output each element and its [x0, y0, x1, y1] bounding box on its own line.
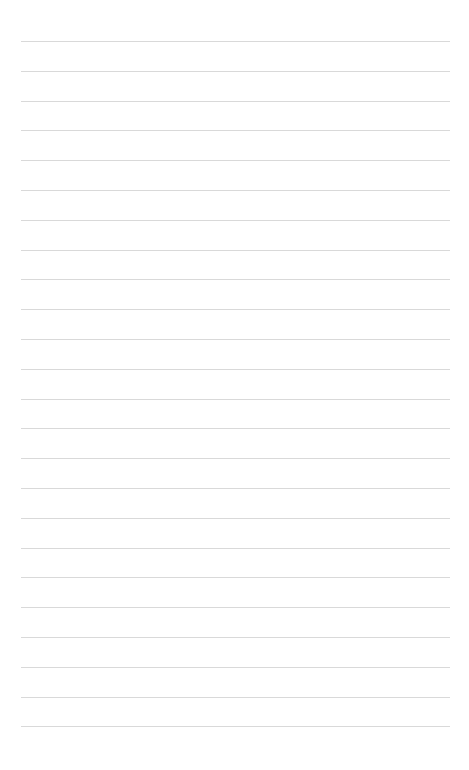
ruled-line [21, 667, 450, 668]
ruled-line [21, 339, 450, 340]
ruled-line [21, 160, 450, 161]
ruled-line [21, 488, 450, 489]
ruled-line [21, 458, 450, 459]
ruled-line [21, 697, 450, 698]
ruled-line [21, 309, 450, 310]
ruled-line [21, 101, 450, 102]
ruled-line [21, 518, 450, 519]
ruled-line [21, 220, 450, 221]
ruled-line [21, 279, 450, 280]
ruled-line [21, 41, 450, 42]
ruled-line [21, 250, 450, 251]
ruled-line [21, 130, 450, 131]
ruled-line [21, 548, 450, 549]
ruled-line [21, 190, 450, 191]
ruled-line [21, 577, 450, 578]
ruled-line [21, 369, 450, 370]
ruled-line [21, 399, 450, 400]
lined-paper-page [0, 0, 469, 770]
ruled-line [21, 71, 450, 72]
ruled-line [21, 428, 450, 429]
ruled-line [21, 607, 450, 608]
ruled-line [21, 726, 450, 727]
ruled-line [21, 637, 450, 638]
